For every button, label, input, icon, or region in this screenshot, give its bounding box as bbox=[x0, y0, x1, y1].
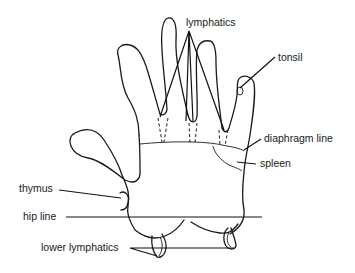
label-spleen: spleen bbox=[260, 157, 291, 169]
hand-diagram: lymphatics tonsil diaphragm line spleen … bbox=[0, 0, 355, 273]
index-finger bbox=[222, 76, 255, 234]
label-thymus: thymus bbox=[19, 182, 53, 194]
diaphragm-leader bbox=[244, 139, 261, 150]
spleen-outline bbox=[213, 146, 242, 171]
thumb bbox=[70, 130, 184, 238]
lower-lymphatics-leader bbox=[130, 248, 234, 256]
diaphragm-line bbox=[140, 142, 244, 151]
lower-lymphatic-left-inner bbox=[159, 237, 162, 256]
spleen-leader bbox=[237, 162, 256, 164]
label-tonsil: tonsil bbox=[278, 51, 303, 63]
ring-finger bbox=[160, 18, 188, 115]
label-lymphatics: lymphatics bbox=[186, 16, 236, 28]
little-finger bbox=[118, 45, 160, 135]
thymus-leader bbox=[59, 190, 121, 198]
label-diaphragm-line: diaphragm line bbox=[264, 132, 333, 144]
label-hip-line: hip line bbox=[23, 210, 56, 222]
tonsil-leader bbox=[240, 57, 275, 88]
label-lower-lymphatics: lower lymphatics bbox=[41, 241, 119, 253]
leader-lines bbox=[59, 31, 275, 256]
